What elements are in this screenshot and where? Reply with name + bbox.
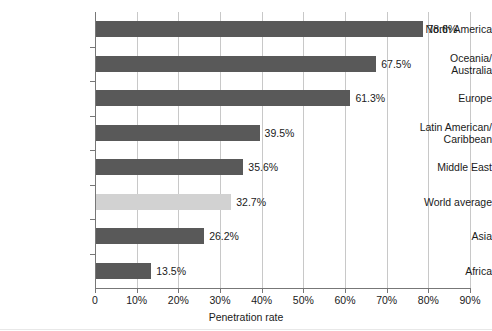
x-axis-tick-label: 10% bbox=[117, 294, 157, 306]
category-label-line: Oceania/ bbox=[406, 52, 492, 64]
x-axis-tick bbox=[303, 289, 304, 293]
y-axis-line bbox=[95, 12, 96, 289]
bar-value-label: 61.3% bbox=[355, 90, 385, 106]
x-axis-tick bbox=[220, 289, 221, 293]
bar-value-label: 13.5% bbox=[156, 263, 186, 279]
category-label: Middle East bbox=[406, 161, 492, 173]
bar bbox=[95, 194, 231, 210]
x-axis-line bbox=[95, 288, 471, 289]
footer-divider bbox=[0, 329, 492, 330]
x-axis-tick-label: 0 bbox=[75, 294, 115, 306]
x-axis-tick-label: 30% bbox=[200, 294, 240, 306]
y-axis-tick bbox=[90, 150, 95, 151]
x-axis-tick bbox=[470, 289, 471, 293]
bar-value-label: 67.5% bbox=[381, 56, 411, 72]
y-axis-tick bbox=[90, 219, 95, 220]
bar bbox=[95, 125, 260, 141]
x-axis-tick-label: 60% bbox=[325, 294, 365, 306]
y-axis-tick bbox=[90, 116, 95, 117]
x-axis-tick bbox=[95, 289, 96, 293]
category-label-line: Caribbean bbox=[406, 133, 492, 145]
x-axis-title: Penetration rate bbox=[0, 311, 492, 323]
bar-value-label: 78.6% bbox=[428, 21, 458, 37]
y-axis-tick bbox=[90, 81, 95, 82]
y-axis-tick bbox=[90, 254, 95, 255]
bar-value-label: 26.2% bbox=[209, 228, 239, 244]
x-axis-tick-label: 50% bbox=[283, 294, 323, 306]
category-label-line: Latin American/ bbox=[406, 121, 492, 133]
y-axis-tick bbox=[90, 47, 95, 48]
gridline bbox=[178, 12, 179, 288]
bar bbox=[95, 263, 151, 279]
x-axis-tick-label: 40% bbox=[242, 294, 282, 306]
gridline bbox=[220, 12, 221, 288]
gridline bbox=[262, 12, 263, 288]
category-label-line: Africa bbox=[406, 265, 492, 277]
bar bbox=[95, 228, 204, 244]
x-axis-tick bbox=[178, 289, 179, 293]
category-label-line: Australia bbox=[406, 64, 492, 76]
category-label: World average bbox=[406, 196, 492, 208]
bar-value-label: 32.7% bbox=[236, 194, 266, 210]
penetration-rate-bar-chart: North AmericaOceania/AustraliaEuropeLati… bbox=[0, 0, 492, 331]
gridline bbox=[303, 12, 304, 288]
bar bbox=[95, 21, 423, 37]
category-label-line: Asia bbox=[406, 230, 492, 242]
x-axis-tick-label: 80% bbox=[408, 294, 448, 306]
x-axis-tick bbox=[345, 289, 346, 293]
gridline bbox=[345, 12, 346, 288]
y-axis-tick bbox=[90, 185, 95, 186]
category-label: Oceania/Australia bbox=[406, 52, 492, 76]
category-label-line: Europe bbox=[406, 92, 492, 104]
x-axis-tick bbox=[387, 289, 388, 293]
x-axis-tick-label: 20% bbox=[158, 294, 198, 306]
category-label: Latin American/Caribbean bbox=[406, 121, 492, 145]
category-label-line: World average bbox=[406, 196, 492, 208]
x-axis-tick bbox=[262, 289, 263, 293]
bar-value-label: 35.6% bbox=[248, 159, 278, 175]
x-axis-tick bbox=[137, 289, 138, 293]
bar bbox=[95, 90, 350, 106]
category-label: Africa bbox=[406, 265, 492, 277]
category-label: Asia bbox=[406, 230, 492, 242]
bar-value-label: 39.5% bbox=[265, 125, 295, 141]
x-axis-tick-label: 70% bbox=[367, 294, 407, 306]
x-axis-tick bbox=[428, 289, 429, 293]
bar bbox=[95, 159, 243, 175]
category-label: Europe bbox=[406, 92, 492, 104]
gridline bbox=[137, 12, 138, 288]
gridline bbox=[387, 12, 388, 288]
category-label-line: Middle East bbox=[406, 161, 492, 173]
x-axis-tick-label: 90% bbox=[450, 294, 490, 306]
bar bbox=[95, 56, 376, 72]
